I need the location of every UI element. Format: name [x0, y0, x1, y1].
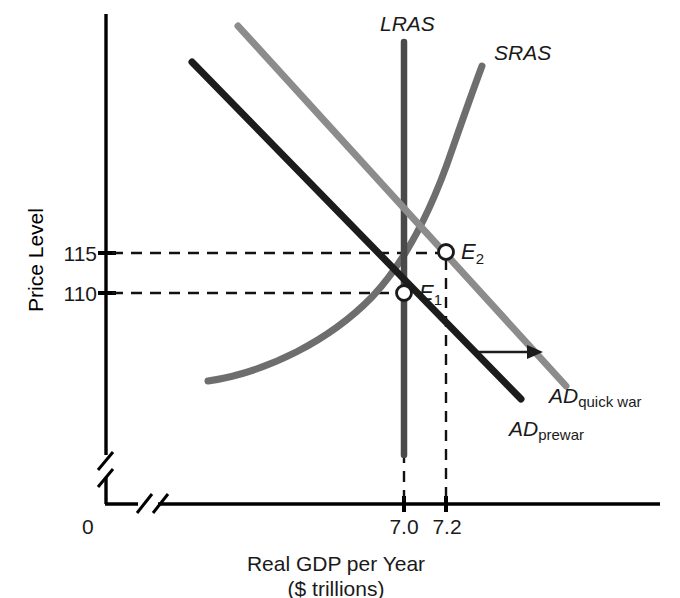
equilibrium-marker-e2	[439, 245, 454, 260]
ad-as-diagram-figure: Price Level 115 110 0 7.0 7.2 Real GDP p…	[0, 0, 680, 598]
equilibrium-label-e2-subscript: 2	[476, 250, 484, 267]
lras-label: LRAS	[380, 13, 435, 34]
equilibrium-label-e2: E2	[461, 241, 484, 263]
ad-quick-war-label-main: AD	[549, 384, 578, 407]
equilibrium-marker-e1	[397, 286, 412, 301]
ad-quick-war-label: ADquick war	[549, 385, 642, 406]
y-tick-label-115: 115	[39, 243, 97, 264]
sras-label: SRAS	[494, 42, 551, 63]
equilibrium-label-e1-subscript: 1	[434, 291, 442, 308]
x-tick-label-72: 7.2	[417, 516, 477, 537]
x-axis-title-line1: Real GDP per Year	[206, 553, 466, 574]
equilibrium-label-e1: E1	[419, 282, 442, 304]
ad-prewar-label: ADprewar	[509, 418, 584, 439]
y-tick-label-110: 110	[39, 283, 97, 304]
equilibrium-label-e2-main: E	[461, 239, 476, 264]
equilibrium-label-e1-main: E	[419, 280, 434, 305]
origin-label: 0	[82, 516, 94, 537]
ad-prewar-label-subscript: prewar	[538, 426, 584, 443]
plot-canvas	[0, 0, 680, 598]
ad-quick-war-label-subscript: quick war	[578, 393, 641, 410]
ad-prewar-label-main: AD	[509, 417, 538, 440]
x-axis-title-line2: ($ trillions)	[206, 578, 466, 598]
ad-prewar-curve	[192, 62, 521, 399]
